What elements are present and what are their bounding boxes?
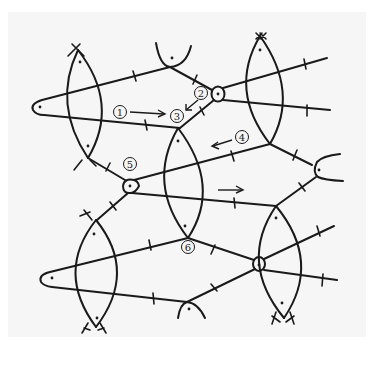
svg-text:6: 6	[185, 242, 191, 253]
svg-text:3: 3	[174, 111, 180, 122]
label-4: 4	[236, 131, 249, 144]
svg-text:2: 2	[198, 88, 204, 99]
label-2: 2	[195, 87, 208, 100]
svg-text:1: 1	[117, 107, 123, 118]
svg-text:5: 5	[127, 159, 133, 170]
label-6: 6	[182, 241, 195, 254]
label-1: 1	[114, 106, 127, 119]
label-5: 5	[124, 158, 137, 171]
svg-text:4: 4	[239, 132, 245, 143]
knot-diagram: 1 2 3 4 5 6	[0, 0, 380, 370]
label-3: 3	[171, 110, 184, 123]
